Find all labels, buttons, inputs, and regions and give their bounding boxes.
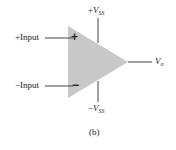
plus-input-label: +Input bbox=[15, 33, 39, 42]
minus-input-label: −Input bbox=[15, 81, 39, 90]
positive-supply-label: +VSS bbox=[88, 6, 105, 16]
plus-sign: + bbox=[71, 31, 78, 43]
minus-sign: − bbox=[72, 79, 79, 91]
op-amp-diagram bbox=[0, 0, 176, 150]
figure-caption: (b) bbox=[89, 128, 100, 137]
negative-supply-label: −VSS bbox=[88, 104, 105, 114]
output-label: Vo bbox=[155, 57, 164, 67]
